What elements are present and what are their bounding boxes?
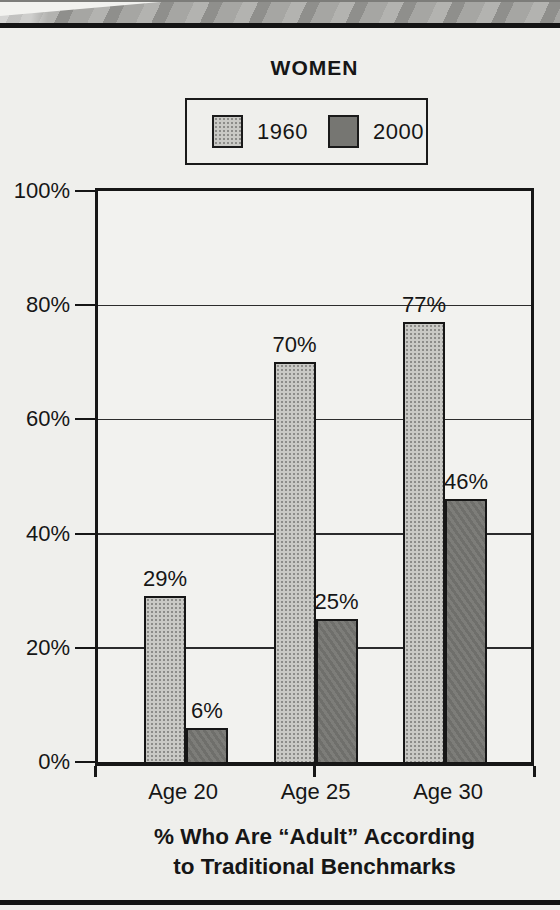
- bar-1960-age-25: 70%: [274, 362, 316, 762]
- bar-chart: 29%6%70%25%77%46% 0%20%40%60%80%100%Age …: [0, 0, 560, 910]
- bar-groups: 29%6%70%25%77%46%: [98, 191, 531, 762]
- x-tick: [313, 766, 316, 777]
- scanned-book-page: WOMEN 1960 2000 29%6%70%25%77%46% 0%20%4…: [0, 0, 560, 910]
- x-axis-caption-line1: % Who Are “Adult” According: [95, 822, 534, 852]
- x-category-label: Age 25: [281, 779, 351, 805]
- y-tick: [75, 533, 95, 535]
- bar-2000-age-25: 25%: [316, 619, 358, 762]
- bar-2000-age-20: 6%: [186, 728, 228, 762]
- y-tick-label: 80%: [0, 292, 70, 318]
- bar-value-label: 46%: [444, 469, 488, 495]
- y-tick-label: 40%: [0, 521, 70, 547]
- bottom-rule: [0, 900, 560, 905]
- y-tick-label: 100%: [0, 178, 70, 204]
- bar-group: 70%25%: [274, 362, 358, 762]
- x-tick: [94, 766, 97, 777]
- y-tick: [75, 190, 95, 192]
- bar-value-label: 77%: [402, 292, 446, 318]
- y-tick-label: 0%: [0, 749, 70, 775]
- x-category-label: Age 30: [413, 779, 483, 805]
- y-tick: [75, 304, 95, 306]
- plot-area: 29%6%70%25%77%46%: [95, 188, 534, 766]
- bar-group: 29%6%: [144, 596, 228, 762]
- bar-1960-age-30: 77%: [403, 322, 445, 762]
- x-category-label: Age 20: [148, 779, 218, 805]
- bar-1960-age-20: 29%: [144, 596, 186, 762]
- x-axis-caption: % Who Are “Adult” According to Tradition…: [95, 822, 534, 882]
- y-tick-label: 60%: [0, 406, 70, 432]
- y-tick: [75, 647, 95, 649]
- x-axis-caption-line2: to Traditional Benchmarks: [95, 852, 534, 882]
- x-tick: [533, 766, 536, 777]
- y-tick-label: 20%: [0, 635, 70, 661]
- bar-value-label: 25%: [314, 589, 358, 615]
- bar-group: 77%46%: [403, 322, 487, 762]
- y-tick: [75, 761, 95, 763]
- bar-value-label: 70%: [272, 332, 316, 358]
- bar-value-label: 29%: [143, 566, 187, 592]
- bar-value-label: 6%: [191, 698, 223, 724]
- bar-2000-age-30: 46%: [445, 499, 487, 762]
- y-tick: [75, 418, 95, 420]
